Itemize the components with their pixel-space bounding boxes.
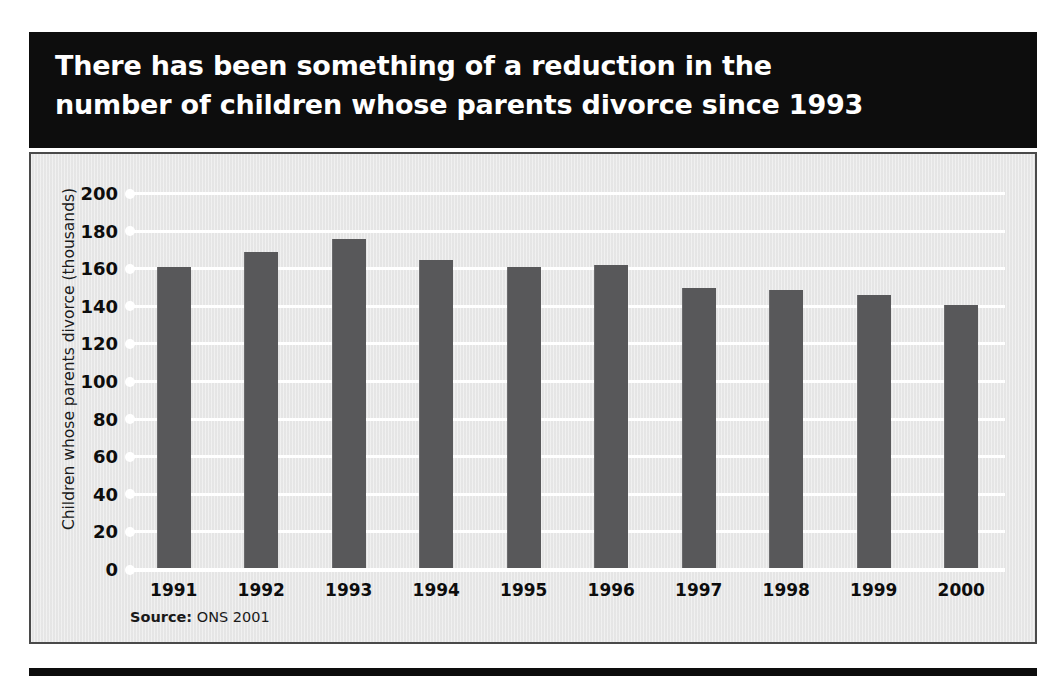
bar (769, 290, 803, 568)
gridline-knob (125, 527, 135, 537)
plot-area: 2001801601401201008060402001991199219931… (130, 154, 1005, 644)
bar (857, 295, 891, 568)
bar (332, 239, 366, 568)
bar (157, 267, 191, 568)
gridline-knob (125, 377, 135, 387)
y-axis-tick-label: 180 (80, 220, 118, 241)
x-axis-tick-label: 1999 (850, 580, 897, 600)
y-axis-tick-label: 20 (93, 521, 118, 542)
title-line-2: number of children whose parents divorce… (55, 85, 1015, 124)
y-axis-tick-label: 120 (80, 333, 118, 354)
y-axis-tick-label: 200 (80, 183, 118, 204)
source-label: Source: (130, 609, 192, 625)
y-axis-tick-label: 40 (93, 483, 118, 504)
y-axis-tick-label: 160 (80, 258, 118, 279)
x-axis-tick-label: 1993 (325, 580, 372, 600)
x-axis-tick-label: 1994 (413, 580, 460, 600)
y-axis-tick-label: 80 (93, 408, 118, 429)
bar (419, 260, 453, 568)
x-axis-tick-label: 1991 (150, 580, 197, 600)
y-axis-tick-label: 0 (105, 559, 118, 580)
gridline-knob (125, 339, 135, 349)
gridline-knob (125, 414, 135, 424)
gridline-knob (125, 565, 135, 575)
gridline-knob (125, 301, 135, 311)
source-note: Source: ONS 2001 (130, 609, 270, 625)
bar (682, 288, 716, 568)
bar (594, 265, 628, 568)
x-axis-tick-label: 1995 (500, 580, 547, 600)
title-line-1: There has been something of a reduction … (55, 46, 1015, 85)
gridline-knob (125, 189, 135, 199)
y-axis-tick-label: 60 (93, 446, 118, 467)
gridline: 0 (130, 568, 1005, 572)
gridline-knob (125, 264, 135, 274)
chart-page: There has been something of a reduction … (0, 0, 1060, 676)
y-axis-tick-label: 100 (80, 371, 118, 392)
gridline-knob (125, 226, 135, 236)
gridline-knob (125, 452, 135, 462)
y-axis-title: Children whose parents divorce (thousand… (60, 152, 78, 569)
bar (507, 267, 541, 568)
gridline: 180 (130, 230, 1005, 233)
title-banner: There has been something of a reduction … (29, 32, 1037, 148)
bar (944, 305, 978, 568)
source-value: ONS 2001 (197, 609, 270, 625)
x-axis-tick-label: 1996 (588, 580, 635, 600)
bottom-strip (29, 668, 1037, 676)
x-axis-tick-label: 1998 (763, 580, 810, 600)
x-axis-tick-label: 2000 (938, 580, 985, 600)
bar (244, 252, 278, 568)
gridline: 200 (130, 192, 1005, 195)
chart-panel: Children whose parents divorce (thousand… (29, 152, 1037, 644)
x-axis-tick-label: 1992 (238, 580, 285, 600)
y-axis-tick-label: 140 (80, 295, 118, 316)
gridline-knob (125, 489, 135, 499)
x-axis-tick-label: 1997 (675, 580, 722, 600)
